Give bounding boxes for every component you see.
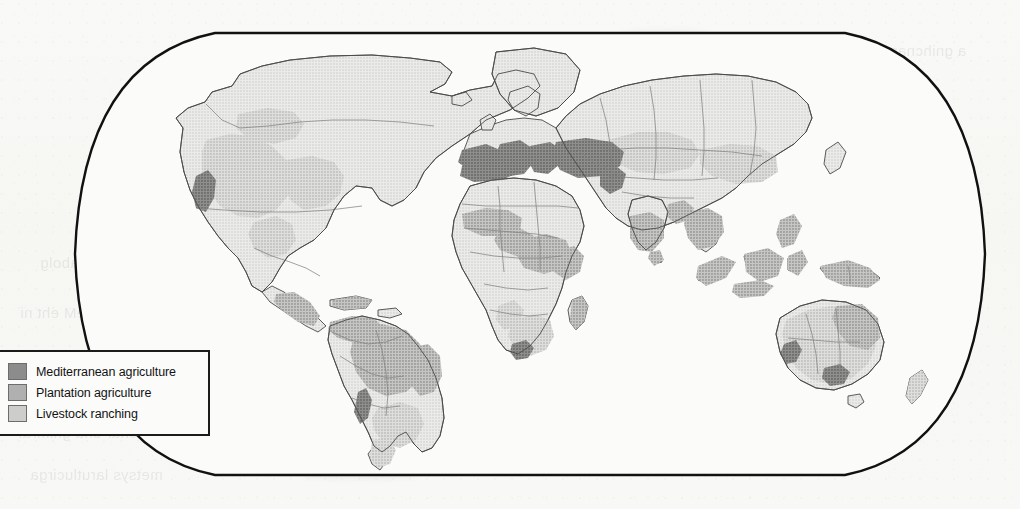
legend-swatch-mediterranean xyxy=(8,363,27,380)
legend-item-livestock: Livestock ranching xyxy=(8,403,198,424)
legend-swatch-plantation xyxy=(8,384,27,401)
legend-label-mediterranean: Mediterranean agriculture xyxy=(36,365,176,379)
map-legend: Mediterranean agriculture Plantation agr… xyxy=(0,350,210,436)
legend-label-plantation: Plantation agriculture xyxy=(36,386,151,400)
legend-swatch-livestock xyxy=(8,405,27,422)
legend-item-mediterranean: Mediterranean agriculture xyxy=(8,361,198,382)
scanned-map-page: a gnihcnar kcotsevil fo noiger erutlucir… xyxy=(0,0,1020,509)
legend-label-livestock: Livestock ranching xyxy=(36,407,138,421)
legend-item-plantation: Plantation agriculture xyxy=(8,382,198,403)
